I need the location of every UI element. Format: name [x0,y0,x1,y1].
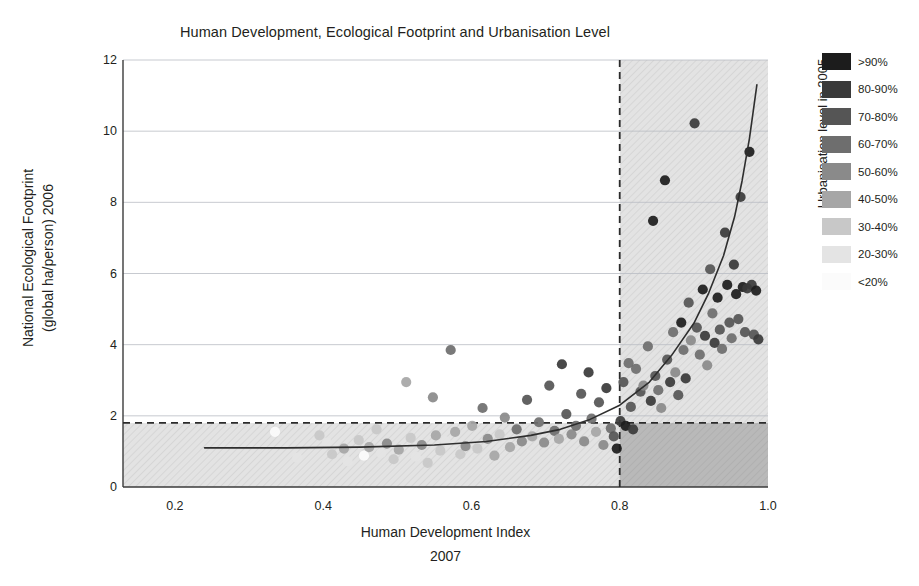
y-tick-label-0: 0 [87,480,117,494]
scatter-point [643,341,653,351]
scatter-point [712,293,722,303]
scatter-point [406,433,416,443]
scatter-point [628,424,638,434]
scatter-point [579,436,589,446]
scatter-point [539,437,549,447]
x-tick-label-0.8: 0.8 [590,499,650,513]
scatter-point [646,396,656,406]
y-axis-title-line2: (global ha/person) 2006 [38,108,58,408]
shaded-region-sustainable-development-quadrant [620,423,768,487]
scatter-point [722,280,732,290]
scatter-point [561,409,571,419]
legend-item[interactable]: 40-50% [822,186,919,214]
scatter-point [435,446,445,456]
x-axis-title: Human Development Index [123,524,768,540]
scatter-point [751,285,761,295]
scatter-point [359,451,369,461]
scatter-point [695,350,705,360]
scatter-point [522,395,532,405]
scatter-point [371,424,381,434]
legend-item[interactable]: <20% [822,268,919,296]
y-tick-label-4: 4 [87,338,117,352]
scatter-point [477,403,487,413]
x-axis-subtitle: 2007 [123,548,768,564]
scatter-point [505,442,515,452]
legend-swatch [822,218,851,235]
legend-label: 30-40% [858,221,898,233]
legend-label: 70-80% [858,111,898,123]
scatter-point [472,443,482,453]
scatter-point [631,364,641,374]
legend-swatch [822,163,851,180]
scatter-point [665,377,675,387]
scatter-point [431,430,441,440]
scatter-point [314,430,324,440]
legend-item[interactable]: >90% [822,48,919,76]
scatter-point [428,392,438,402]
scatter-point [327,449,337,459]
scatter-point [594,397,604,407]
scatter-point [450,427,460,437]
scatter-point [740,327,750,337]
x-tick-label-0.6: 0.6 [441,499,501,513]
legend-label: >90% [858,56,888,68]
scatter-point [753,334,763,344]
scatter-point [544,380,554,390]
scatter-point [724,318,734,328]
legend-item[interactable]: 80-90% [822,76,919,104]
scatter-point [686,335,696,345]
scatter-point [733,314,743,324]
scatter-svg [123,60,768,487]
legend-swatch [822,246,851,263]
scatter-point [626,402,636,412]
scatter-point [591,427,601,437]
scatter-point [500,413,510,423]
scatter-point [576,389,586,399]
x-tick-label-0.4: 0.4 [293,499,353,513]
y-axis-tick-labels: 024681012 [83,60,117,487]
scatter-point [609,431,619,441]
legend-label: 80-90% [858,83,898,95]
scatter-point [376,448,386,458]
y-tick-label-10: 10 [87,124,117,138]
scatter-point [698,284,708,294]
scatter-point [660,175,670,185]
scatter-point [554,434,564,444]
x-tick-label-1.0: 1.0 [738,499,798,513]
scatter-point [705,264,715,274]
scatter-point [512,424,522,434]
scatter-point [670,367,680,377]
scatter-point [681,373,691,383]
scatter-point [653,385,663,395]
scatter-point [648,216,658,226]
scatter-point [270,427,280,437]
legend-item[interactable]: 20-30% [822,241,919,269]
scatter-point [715,325,725,335]
scatter-point [673,390,683,400]
scatter-point [489,451,499,461]
legend-items: >90%80-90%70-80%60-70%50-60%40-50%30-40%… [822,48,919,296]
legend-item[interactable]: 30-40% [822,213,919,241]
scatter-point [411,452,421,462]
x-tick-label-0.2: 0.2 [145,499,205,513]
y-tick-label-6: 6 [87,267,117,281]
legend-swatch [822,81,851,98]
scatter-point [534,417,544,427]
scatter-point [467,421,477,431]
legend-item[interactable]: 70-80% [822,103,919,131]
scatter-point [612,443,622,453]
scatter-point [557,359,567,369]
scatter-point [678,345,688,355]
legend-label: 60-70% [858,138,898,150]
page-title: Human Development, Ecological Footprint … [0,24,790,40]
scatter-point [339,443,349,453]
scatter-point [684,298,694,308]
legend-item[interactable]: 60-70% [822,131,919,159]
scatter-point [735,192,745,202]
x-axis-tick-labels: 0.20.40.60.81.0 [123,499,768,517]
legend-label: 20-30% [858,248,898,260]
scatter-point [583,367,593,377]
legend-item[interactable]: 50-60% [822,158,919,186]
scatter-point [423,458,433,468]
scatter-point [676,318,686,328]
